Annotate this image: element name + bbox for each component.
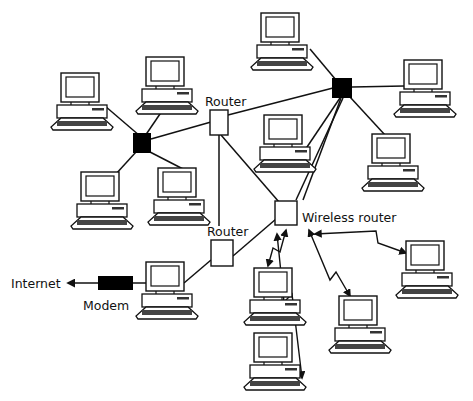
modem — [98, 276, 133, 290]
computer-pc-8 — [362, 134, 424, 191]
computer-pc-2 — [136, 57, 198, 114]
computer-pc-4 — [148, 168, 210, 225]
computer-pc-3 — [71, 172, 133, 229]
wireless-router-label: Wireless router — [302, 210, 397, 225]
computer-pc-5 — [251, 13, 313, 70]
link-pc6-hub-right — [352, 86, 404, 87]
computer-pc-7 — [254, 115, 316, 172]
network-diagram: Router Router Wireless router Modem Inte… — [0, 0, 473, 401]
link-pc5-hub-right — [310, 49, 336, 80]
computer-pc-1 — [51, 73, 113, 130]
router-bottom-label: Router — [207, 224, 249, 239]
computer-pc-10 — [244, 268, 306, 325]
wired-links — [68, 49, 404, 283]
hub-left — [133, 133, 151, 153]
computer-pc-13 — [396, 241, 458, 298]
hub-right — [332, 78, 352, 98]
computer-pc-11 — [244, 333, 306, 390]
router-top-label: Router — [205, 94, 247, 109]
link-pc2-hub-left — [145, 111, 162, 136]
internet-label: Internet — [11, 276, 61, 291]
link-router-bottom-pc9 — [184, 260, 211, 283]
link-hub-left-router-top — [151, 122, 211, 139]
computer-pc-6 — [394, 60, 456, 117]
link-pc8-hub-right — [350, 97, 385, 135]
router-top — [210, 110, 228, 135]
wireless-router — [275, 201, 297, 225]
computer-pc-9 — [136, 262, 198, 319]
computer-pc-12 — [329, 296, 391, 353]
wireless-link-pc12 — [309, 230, 350, 296]
link-pc1-hub-left — [105, 106, 140, 136]
diagram-svg: Router Router Wireless router Modem Inte… — [0, 0, 473, 401]
router-bottom — [211, 240, 233, 266]
modem-label: Modem — [83, 298, 129, 313]
wireless-link-pc13 — [315, 231, 406, 253]
